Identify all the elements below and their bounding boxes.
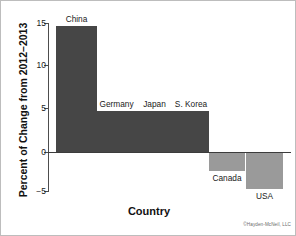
bar-china[interactable] (56, 26, 97, 152)
copyright-credit: ©Hayden-McNeil, LLC (243, 222, 291, 227)
bar-label-usa: USA (246, 191, 283, 201)
bar-label-canada: Canada (206, 173, 248, 183)
bar-germany[interactable] (97, 111, 136, 152)
chart-figure: 15 10 5 0 −5 China Germany Japan S. Kore… (0, 0, 296, 236)
y-axis-line (48, 23, 49, 192)
bar-canada[interactable] (209, 153, 245, 171)
plot-area: 15 10 5 0 −5 China Germany Japan S. Kore… (1, 1, 296, 236)
y-axis-title: Percent of Change from 2012–2013 (17, 20, 29, 200)
bar-label-china: China (56, 14, 97, 24)
bar-usa[interactable] (246, 153, 283, 189)
bar-s-korea[interactable] (173, 111, 209, 152)
x-axis-title: Country (1, 205, 296, 217)
bar-japan[interactable] (136, 111, 173, 152)
bar-label-germany: Germany (93, 99, 140, 109)
bar-label-s-korea: S. Korea (169, 99, 213, 109)
